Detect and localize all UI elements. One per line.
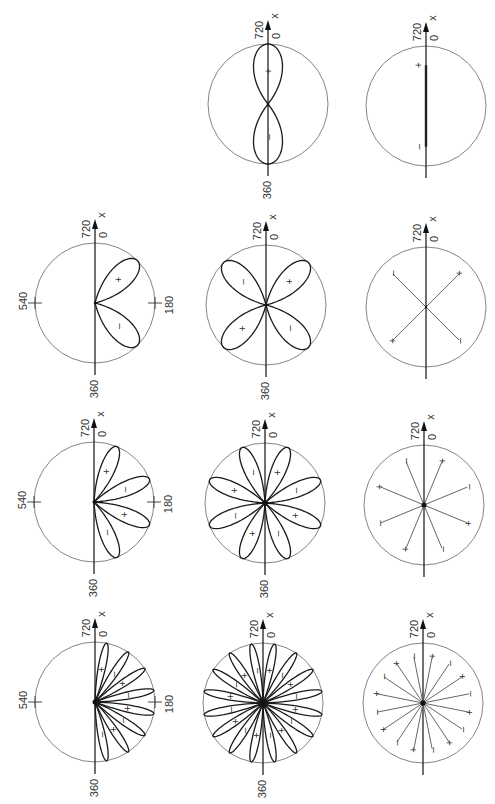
- plus-sign: +: [117, 681, 128, 687]
- minus-sign: –: [391, 740, 402, 746]
- plus-sign: +: [464, 709, 475, 715]
- label-540: 540: [16, 491, 28, 509]
- label-0: 0: [96, 431, 108, 437]
- label-720: 720: [250, 420, 262, 438]
- label-0: 0: [268, 234, 280, 240]
- label-540: 540: [17, 292, 29, 310]
- ray: [393, 307, 426, 340]
- plus-sign: +: [276, 727, 287, 733]
- plus-sign: +: [290, 513, 301, 519]
- plus-sign: +: [374, 484, 385, 490]
- center-dot: [261, 701, 266, 706]
- minus-sign: –: [225, 706, 236, 712]
- plus-sign: +: [113, 277, 124, 283]
- minus-sign: –: [378, 673, 389, 679]
- minus-sign: –: [284, 325, 295, 331]
- minus-sign: –: [400, 458, 411, 464]
- minus-sign: –: [457, 726, 468, 732]
- plus-sign: +: [96, 667, 107, 673]
- axis-arrow-icon: [265, 20, 271, 30]
- label-x: x: [95, 212, 107, 218]
- panel-c2r2: 7200x360+–+–: [206, 214, 326, 400]
- plus-sign: +: [391, 660, 402, 666]
- label-360: 360: [87, 579, 99, 597]
- plus-sign: +: [272, 469, 283, 475]
- lobe: [95, 702, 108, 761]
- label-x: x: [265, 412, 277, 418]
- center-dot: [265, 304, 267, 306]
- plus-sign: +: [230, 718, 241, 724]
- panel-c3r1: 7200x+–: [366, 15, 486, 178]
- minus-sign: –: [101, 529, 112, 535]
- label-0: 0: [267, 432, 279, 438]
- center-dot: [94, 302, 96, 304]
- label-180: 180: [163, 695, 175, 713]
- label-0: 0: [428, 35, 440, 41]
- panel-c1r4: 7200x360540180+–+–+–+–: [17, 611, 175, 797]
- axis-arrow-icon: [421, 421, 427, 431]
- label-0: 0: [428, 236, 440, 242]
- minus-sign: –: [276, 672, 287, 678]
- panel-c2r3: 7200x360+–+–+–+–: [205, 412, 325, 598]
- minus-sign: –: [371, 709, 382, 715]
- label-0: 0: [97, 232, 109, 238]
- label-720: 720: [251, 222, 263, 240]
- minus-sign: –: [122, 692, 133, 698]
- plus-sign: +: [119, 512, 130, 518]
- center-dot: [422, 503, 427, 508]
- minus-sign: –: [454, 338, 465, 344]
- center-dot: [93, 700, 98, 705]
- plus-sign: +: [371, 691, 382, 697]
- plus-sign: +: [444, 740, 455, 746]
- panel-c3r3: 7200x+–+–+–+–: [364, 414, 484, 577]
- axis-arrow-icon: [92, 219, 98, 229]
- minus-sign: –: [464, 690, 475, 696]
- plus-sign: +: [237, 325, 248, 331]
- minus-sign: –: [247, 469, 258, 475]
- plus-sign: +: [101, 468, 112, 474]
- plus-sign: +: [122, 705, 133, 711]
- minus-sign: –: [413, 144, 424, 150]
- label-180: 180: [162, 495, 174, 513]
- center-dot: [93, 501, 95, 503]
- minus-sign: –: [239, 727, 250, 733]
- plus-sign: +: [437, 458, 448, 464]
- minus-sign: –: [96, 731, 107, 737]
- minus-sign: –: [251, 667, 262, 673]
- ray: [393, 274, 426, 307]
- axis-arrow-icon: [262, 419, 268, 429]
- polar-lobe-diagram-grid: 7200x360540180+–7200x360540180+–+–7200x3…: [0, 0, 495, 804]
- panel-c1r2: 7200x360540180+–: [17, 212, 175, 398]
- label-720: 720: [248, 620, 260, 638]
- label-x: x: [95, 611, 107, 617]
- panel-c2r4: 7200x360+–+–+–+–+–+–+–+–: [203, 612, 323, 798]
- panel-c1r3: 7200x360540180+–+–: [16, 411, 174, 597]
- label-x: x: [423, 612, 435, 618]
- label-x: x: [426, 216, 438, 222]
- plus-sign: +: [229, 487, 240, 493]
- label-x: x: [426, 15, 438, 21]
- minus-sign: –: [263, 134, 274, 140]
- plus-sign: +: [247, 530, 258, 536]
- minus-sign: –: [108, 671, 119, 677]
- minus-sign: –: [290, 693, 301, 699]
- minus-sign: –: [408, 653, 419, 659]
- plus-sign: +: [454, 270, 465, 276]
- label-720: 720: [79, 419, 91, 437]
- minus-sign: –: [264, 732, 275, 738]
- axis-arrow-icon: [423, 223, 429, 233]
- axis-arrow-icon: [92, 618, 98, 628]
- minus-sign: –: [113, 323, 124, 329]
- axis-arrow-icon: [91, 418, 97, 428]
- plus-sign: +: [284, 279, 295, 285]
- minus-sign: –: [285, 718, 296, 724]
- label-0: 0: [97, 631, 109, 637]
- plus-sign: +: [400, 546, 411, 552]
- label-720: 720: [408, 620, 420, 638]
- label-x: x: [424, 414, 436, 420]
- plus-sign: +: [263, 68, 274, 74]
- minus-sign: –: [437, 546, 448, 552]
- minus-sign: –: [427, 747, 438, 753]
- label-540: 540: [17, 691, 29, 709]
- minus-sign: –: [230, 681, 241, 687]
